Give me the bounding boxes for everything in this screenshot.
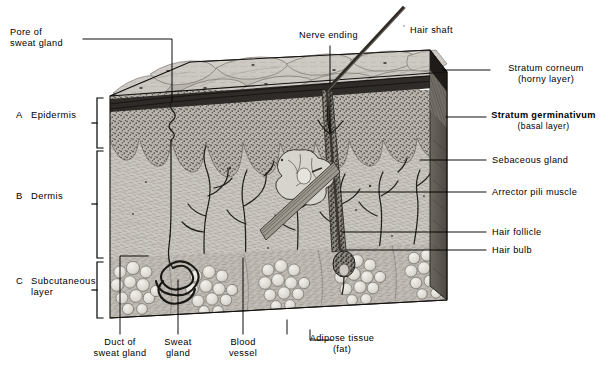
label-hair-follicle-text: Hair follicle xyxy=(492,227,541,237)
label-duct-of-sweat-gland: Duct of sweat gland xyxy=(78,337,162,359)
layer-label-dermis: BDermis xyxy=(16,190,63,201)
label-nerve-ending: Nerve ending xyxy=(299,30,358,41)
label-sweat-gland: Sweat gland xyxy=(152,337,204,359)
label-sweat-gland-line1: Sweat xyxy=(164,337,191,347)
label-sebaceous-gland: Sebaceous gland xyxy=(492,155,568,166)
bracket-dermis xyxy=(97,151,103,258)
label-hair-bulb: Hair bulb xyxy=(492,245,532,256)
label-stratum-corneum-line1: Stratum corneum xyxy=(508,63,584,73)
label-adipose-tissue: Adipose tissue (fat) xyxy=(290,333,394,355)
label-arrector-pili-text: Arrector pili muscle xyxy=(492,187,577,197)
block-right-face xyxy=(430,50,447,300)
layer-index-a: A xyxy=(16,109,31,120)
label-stratum-germinativum: Stratum germinativum (basal layer) xyxy=(487,110,600,132)
label-blood-vessel: Blood vessel xyxy=(217,337,269,359)
figure-canvas: Pore of sweat gland Nerve ending Hair sh… xyxy=(0,0,600,373)
bracket-epidermis xyxy=(97,98,103,148)
label-stratum-germinativum-line2: (basal layer) xyxy=(487,121,600,132)
layer-label-subcutaneous: CSubcutaneous layer xyxy=(16,275,96,297)
label-hair-shaft: Hair shaft xyxy=(410,25,453,36)
layer-name-dermis: Dermis xyxy=(31,190,63,201)
layer-index-b: B xyxy=(16,190,31,201)
bracket-subcutaneous xyxy=(97,262,103,318)
label-pore-of-sweat-gland: Pore of sweat gland xyxy=(10,27,63,49)
label-hair-shaft-text: Hair shaft xyxy=(410,25,453,35)
label-stratum-corneum-line2: (horny layer) xyxy=(494,74,598,85)
layer-name-epidermis: Epidermis xyxy=(31,109,76,120)
label-hair-bulb-text: Hair bulb xyxy=(492,245,532,255)
label-pore-line2: sweat gland xyxy=(10,38,63,49)
layer-index-c: C xyxy=(16,275,31,286)
label-nerve-ending-text: Nerve ending xyxy=(299,30,358,40)
label-stratum-corneum: Stratum corneum (horny layer) xyxy=(494,63,598,85)
layer-label-epidermis: AEpidermis xyxy=(16,109,76,120)
label-hair-follicle: Hair follicle xyxy=(492,227,541,238)
label-stratum-germinativum-line1: Stratum germinativum xyxy=(491,110,596,120)
label-blood-vessel-line2: vessel xyxy=(217,348,269,359)
label-duct-line2: sweat gland xyxy=(78,348,162,359)
label-pore-line1: Pore of xyxy=(10,27,42,37)
label-adipose-line1: Adipose tissue xyxy=(310,333,375,343)
label-blood-vessel-line1: Blood xyxy=(230,337,255,347)
label-duct-line1: Duct of xyxy=(104,337,136,347)
layer-name-subcutaneous-line2: layer xyxy=(16,286,96,297)
label-sweat-gland-line2: gland xyxy=(152,348,204,359)
label-sebaceous-gland-text: Sebaceous gland xyxy=(492,155,568,165)
label-adipose-line2: (fat) xyxy=(290,344,394,355)
layer-name-subcutaneous: Subcutaneous xyxy=(31,275,96,286)
label-arrector-pili-muscle: Arrector pili muscle xyxy=(492,187,577,198)
